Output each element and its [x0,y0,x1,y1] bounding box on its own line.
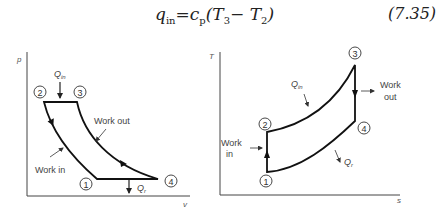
pv-work-out-arrow-icon [96,129,106,141]
svg-text:1: 1 [83,180,88,190]
ts-state-3: 3 [349,47,361,59]
pv-state-2: 2 [34,86,46,98]
ts-qr-label: Qr [344,157,354,168]
pv-state-1: 1 [80,178,92,190]
pv-qr-label: Qr [137,183,147,194]
pv-state-4: 4 [165,175,177,187]
ts-work-out-label-1: Work [380,80,401,90]
ts-qin-label: Qin [291,79,303,90]
pv-compression-arrow-icon [47,118,56,127]
ts-qr-arrow-icon [335,150,340,162]
svg-text:3: 3 [352,49,357,59]
svg-text:2: 2 [262,120,267,130]
ts-cycle-path [267,65,355,172]
ts-expansion-arrow-icon [352,90,358,98]
ts-qin-arrow-icon [304,94,308,106]
ts-work-out-label-2: out [384,92,397,102]
ts-state-1: 1 [260,175,272,187]
ts-state-2: 2 [259,118,271,130]
ts-y-label: T [209,52,215,61]
ts-diagram: T s Qin Qr Work out Work in 1 2 3 [209,47,401,205]
svg-text:3: 3 [77,88,82,98]
pv-x-label: v [183,200,188,209]
pv-qin-label: Qin [54,69,66,80]
pv-diagram: p v Qin Qr Work out Work in 2 3 1 [16,52,190,209]
svg-text:4: 4 [361,124,366,134]
pv-state-3: 3 [74,86,86,98]
ts-compression-arrow-icon [264,150,270,158]
pv-work-out-label: Work out [94,116,130,126]
ts-state-4: 4 [358,122,370,134]
pv-work-in-label: Work in [35,165,65,175]
ts-work-in-label-1: Work [221,138,242,148]
svg-text:1: 1 [263,177,268,187]
pv-y-label: p [16,55,22,64]
svg-text:4: 4 [168,177,173,187]
pv-work-in-arrow-icon [50,148,63,157]
ts-work-in-label-2: in [226,149,233,159]
ts-x-label: s [397,196,401,205]
svg-text:2: 2 [37,88,42,98]
